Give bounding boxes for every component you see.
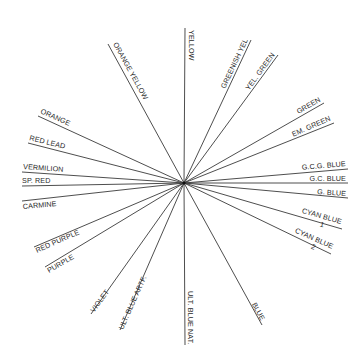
spoke-label-g-blue: G. BLUE (317, 187, 347, 198)
spoke-label-ult-blue-nat: ULT. BLUE NAT. (186, 291, 195, 344)
label-text: YELLOW (187, 30, 196, 61)
label-text: ORANGE (39, 107, 72, 128)
spoke-lines (22, 28, 348, 345)
spoke-label-blue: BLUE (250, 301, 267, 322)
color-spoke-diagram: YELLOWORANGE YELLOWGREENISH YELYEL. GREE… (0, 0, 363, 360)
spoke-label-green: GREEN (295, 95, 322, 116)
spoke-line-cyan-blue-2 (184, 183, 331, 254)
spoke-label-ult-blue-artf: ULT. BLUE ARTF. (117, 274, 149, 331)
label-text: CARMINE (22, 199, 57, 211)
center-hub (182, 181, 185, 184)
label-text: GREEN (295, 95, 322, 116)
spoke-line-yellow (184, 28, 185, 183)
spoke-label-orange: ORANGE (39, 107, 72, 128)
spoke-label-carmine: CARMINE (22, 199, 57, 211)
label-text: ORANGE YELLOW (111, 41, 150, 102)
label-text: G. BLUE (317, 187, 347, 198)
spoke-line-ult-blue-nat (184, 183, 185, 345)
spoke-label-yel-green: YEL. GREEN (243, 51, 276, 92)
label-text: SP. RED (22, 176, 51, 185)
label-text: VIOLET (88, 287, 111, 314)
spoke-line-greenish-yel (184, 40, 251, 183)
spoke-label-red-purple: RED PURPLE (34, 227, 81, 254)
label-text: GREENISH YEL (219, 37, 250, 90)
spoke-label-orange-yellow: ORANGE YELLOW (111, 41, 150, 102)
label-text: BLUE (250, 301, 267, 322)
label-text: RED PURPLE (34, 227, 81, 254)
label-text: ULT. BLUE NAT. (186, 291, 195, 344)
label-text: G.C. BLUE (310, 174, 347, 183)
spoke-label-greenish-yel: GREENISH YEL (219, 37, 250, 90)
spoke-label-cyan-blue-2: CYAN BLUE2 (290, 226, 335, 258)
spoke-label-purple: PURPLE (46, 252, 76, 275)
label-text: ULT. BLUE ARTF. (117, 274, 149, 331)
spoke-label-violet: VIOLET (88, 287, 111, 314)
spoke-label-yellow: YELLOW (187, 30, 196, 61)
label-text: YEL. GREEN (243, 51, 276, 92)
spoke-line-orange-yellow (108, 44, 184, 183)
spoke-label-gc-blue: G.C. BLUE (310, 174, 347, 183)
spoke-label-sp-red: SP. RED (22, 176, 51, 185)
label-text: PURPLE (46, 252, 76, 275)
